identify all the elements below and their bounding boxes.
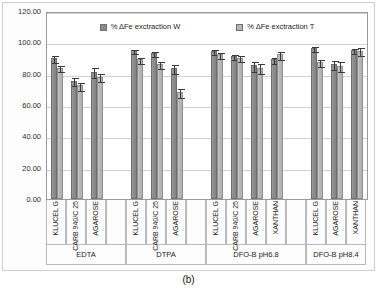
error-bar-cap xyxy=(212,50,219,51)
x-axis-category-cell: KLUCEL G xyxy=(46,200,66,245)
error-bar-cap xyxy=(218,59,225,60)
error-bar-cap xyxy=(258,74,265,75)
error-bar-cap xyxy=(92,68,99,69)
error-bar-cap xyxy=(52,56,59,57)
bar xyxy=(317,62,323,199)
error-bar xyxy=(220,53,221,59)
bar xyxy=(277,54,283,199)
error-bar-cap xyxy=(78,91,85,92)
bar xyxy=(131,50,137,199)
error-bar xyxy=(240,56,241,63)
error-bar xyxy=(60,66,61,73)
error-bar-cap xyxy=(172,65,179,66)
error-bar-cap xyxy=(138,58,145,59)
x-axis-group-label: DFO-B pH6.8 xyxy=(233,251,278,259)
x-axis-category-label: KLUCEL G xyxy=(52,201,60,235)
bar-pair xyxy=(267,13,287,199)
y-axis-tick-label: 0.00 xyxy=(26,196,41,204)
x-axis-category-cell: AGAROSE xyxy=(246,200,266,245)
x-axis-category-label: AGAROSE xyxy=(332,201,340,236)
bar xyxy=(177,92,183,199)
error-bar-cap xyxy=(338,72,345,73)
x-axis-group-label: DFO-B pH8.4 xyxy=(313,251,358,259)
error-bar-cap xyxy=(238,56,245,57)
bar xyxy=(151,53,157,199)
error-bar xyxy=(214,50,215,56)
error-bar xyxy=(334,61,335,71)
bar-pair xyxy=(227,13,247,199)
y-axis-tick-labels: 0.0020.0040.0060.0080.00100.00120.00 xyxy=(6,6,44,200)
bar xyxy=(51,58,57,199)
x-axis-group-cell: EDTA xyxy=(46,245,126,265)
error-bar xyxy=(314,47,315,53)
error-bar-cap xyxy=(172,74,179,75)
error-bar xyxy=(94,68,95,79)
bar xyxy=(57,68,63,199)
x-axis-category-label: CARB 940/C 25 xyxy=(232,201,240,251)
error-bar xyxy=(160,62,161,70)
bar xyxy=(71,81,77,199)
error-bar-cap xyxy=(158,69,165,70)
error-bar xyxy=(340,62,341,73)
bar xyxy=(77,85,83,199)
x-axis-category-cell: KLUCEL G xyxy=(126,200,146,245)
x-axis-category-cell: CARB 940/C 25 xyxy=(66,200,86,245)
error-bar xyxy=(180,89,181,98)
bar xyxy=(237,58,243,199)
x-axis-group-labels: EDTADTPADFO-B pH6.8DFO-B pH8.4 xyxy=(46,245,368,265)
bar-pair xyxy=(167,13,187,199)
x-axis-category-label: XANTHAN xyxy=(352,201,360,234)
y-axis-tick-label: 80.00 xyxy=(22,71,41,79)
x-axis-category-cell: AGAROSE xyxy=(86,200,106,245)
error-bar-cap xyxy=(72,78,79,79)
x-axis-category-label: AGAROSE xyxy=(252,201,260,236)
bar-pair xyxy=(327,13,347,199)
error-bar xyxy=(234,55,235,61)
bar xyxy=(357,51,363,199)
x-axis-category-label: KLUCEL G xyxy=(132,201,140,235)
error-bar xyxy=(80,83,81,92)
bar-pair xyxy=(67,13,87,199)
bar xyxy=(257,68,263,199)
error-bar xyxy=(74,78,75,86)
x-axis-empty-cell xyxy=(106,200,126,245)
bar xyxy=(171,68,177,199)
y-axis-tick-label: 40.00 xyxy=(22,133,41,141)
error-bar-cap xyxy=(318,60,325,61)
error-bar-cap xyxy=(278,52,285,53)
figure-container: 0.0020.0040.0060.0080.00100.00120.00 % Δ… xyxy=(0,0,377,297)
error-bar-cap xyxy=(218,53,225,54)
error-bar-cap xyxy=(98,74,105,75)
bar xyxy=(331,64,337,199)
x-axis-category-cell: XANTHAN xyxy=(346,200,366,245)
error-bar-cap xyxy=(252,62,259,63)
x-axis-category-cell: CARB 940/C 25 xyxy=(146,200,166,245)
error-bar-cap xyxy=(258,64,265,65)
error-bar xyxy=(260,64,261,75)
x-axis-group-label: EDTA xyxy=(76,251,95,259)
error-bar xyxy=(54,56,55,64)
bar-pair xyxy=(127,13,147,199)
error-bar-cap xyxy=(98,82,105,83)
bar xyxy=(97,77,103,199)
error-bar-cap xyxy=(312,52,319,53)
error-bar xyxy=(140,58,141,65)
error-bar-cap xyxy=(178,89,185,90)
bar xyxy=(337,66,343,199)
bar-pair xyxy=(47,13,67,199)
x-axis-category-label: AGAROSE xyxy=(92,201,100,236)
error-bar xyxy=(280,52,281,62)
error-bar xyxy=(154,52,155,58)
error-bar-cap xyxy=(158,62,165,63)
error-bar-cap xyxy=(178,98,185,99)
error-bar-cap xyxy=(278,60,285,61)
plot-area: % ΔFe exctraction W% ΔFe exctraction T xyxy=(46,12,368,200)
figure-caption: (b) xyxy=(0,274,377,285)
bar xyxy=(251,65,257,199)
x-axis-category-label: CARB 940/C 25 xyxy=(72,201,80,251)
x-axis-category-label: KLUCEL G xyxy=(312,201,320,235)
x-axis-group-cell: DFO-B pH6.8 xyxy=(206,245,306,265)
x-axis-category-labels: KLUCEL GCARB 940/C 25AGAROSEKLUCEL GCARB… xyxy=(46,200,368,245)
bar-pair xyxy=(87,13,107,199)
y-axis-tick-label: 60.00 xyxy=(22,102,41,110)
